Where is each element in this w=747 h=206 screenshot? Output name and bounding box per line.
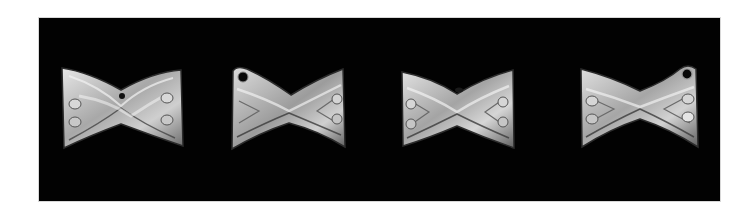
bow-tie-artifact-1	[59, 66, 184, 150]
bow-tie-artifact-3	[399, 68, 515, 150]
image-description: Four bow-tie (hourglass) shaped metallic…	[39, 18, 40, 19]
bow-tie-artifact-4	[578, 63, 701, 150]
bow-tie-artifact-2	[229, 65, 347, 151]
